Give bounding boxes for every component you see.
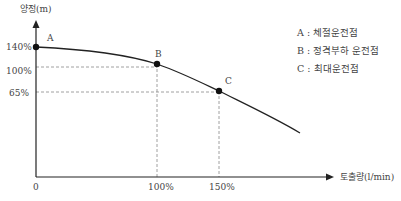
point-a-marker <box>33 44 39 50</box>
x-axis-arrow-icon <box>326 174 334 181</box>
y-axis-arrow-icon <box>33 20 40 28</box>
x-axis-title: 토출량(l/min) <box>340 171 394 182</box>
x-tick-100: 100% <box>148 182 174 192</box>
legend: A : 체절운전점 B : 정격부하 운전점 C : 최대운전점 <box>296 27 379 74</box>
legend-item-c: C : 최대운전점 <box>297 63 359 74</box>
legend-item-a: A : 체절운전점 <box>296 27 358 38</box>
legend-item-b: B : 정격부하 운전점 <box>297 45 379 56</box>
x-tick-150: 150% <box>209 182 235 192</box>
pump-curve-chart: A B C 양정(m) 토출량(l/min) 140% 100% 65% 0 1… <box>0 0 401 201</box>
y-tick-65: 65% <box>9 88 29 98</box>
point-b-marker <box>154 61 160 67</box>
point-c-marker <box>216 88 222 94</box>
guide-lines <box>36 64 219 177</box>
point-b-label: B <box>155 49 162 59</box>
x-tick-0: 0 <box>33 182 39 192</box>
axes <box>36 25 328 177</box>
point-c-label: C <box>225 76 232 86</box>
performance-curve <box>36 47 300 133</box>
y-tick-140: 140% <box>6 42 32 52</box>
y-axis-title: 양정(m) <box>20 4 52 14</box>
y-tick-100: 100% <box>6 66 32 76</box>
point-a-label: A <box>46 33 54 43</box>
